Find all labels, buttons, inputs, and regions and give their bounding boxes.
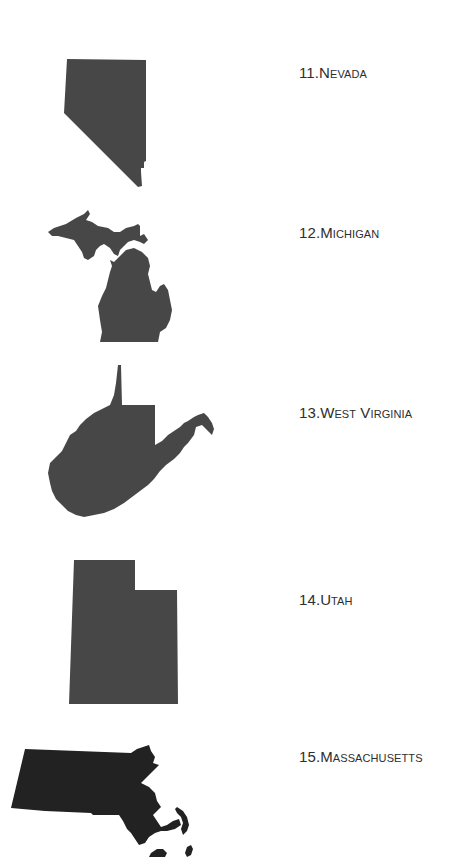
massachusetts-silhouette-icon bbox=[11, 745, 196, 857]
state-name: Massachusetts bbox=[320, 748, 422, 765]
state-number: 13. bbox=[299, 404, 320, 421]
state-name: Michigan bbox=[320, 224, 379, 241]
west-virginia-silhouette-icon bbox=[48, 365, 216, 520]
michigan-silhouette-icon bbox=[48, 210, 176, 344]
state-name: Utah bbox=[320, 591, 352, 608]
state-label-west-virginia: 13.West Virginia bbox=[299, 404, 412, 421]
state-number: 12. bbox=[299, 224, 320, 241]
nevada-silhouette-icon bbox=[64, 58, 149, 190]
state-number: 14. bbox=[299, 591, 320, 608]
state-name: Nevada bbox=[319, 64, 367, 81]
state-label-massachusetts: 15.Massachusetts bbox=[299, 748, 423, 765]
utah-silhouette-icon bbox=[69, 560, 179, 705]
state-label-michigan: 12.Michigan bbox=[299, 224, 379, 241]
state-label-utah: 14.Utah bbox=[299, 591, 353, 608]
state-number: 15. bbox=[299, 748, 320, 765]
state-number: 11. bbox=[299, 64, 319, 81]
state-name: West Virginia bbox=[320, 404, 412, 421]
state-label-nevada: 11.Nevada bbox=[299, 64, 367, 81]
